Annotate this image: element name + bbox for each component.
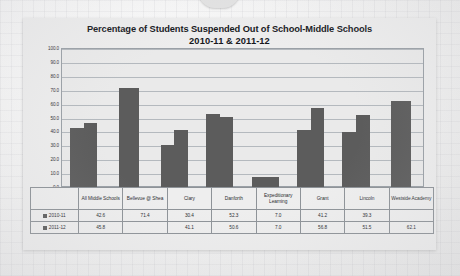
table-cell: 41.2 bbox=[300, 210, 344, 222]
y-axis-tick-label: 90.0 bbox=[50, 59, 59, 64]
table-cell: 51.5 bbox=[345, 222, 389, 234]
data-table-wrapper: All Middle SchoolsBellevue @ SheaClaryDa… bbox=[30, 187, 424, 234]
bar-group bbox=[243, 48, 288, 187]
table-column-header: Expeditionary Learning bbox=[256, 188, 300, 210]
bar-group bbox=[379, 48, 424, 187]
legend-swatch-icon bbox=[43, 226, 47, 230]
chart-card: Percentage of Students Suspended Out of … bbox=[23, 18, 436, 250]
bar-group bbox=[152, 48, 197, 187]
bar bbox=[84, 123, 98, 187]
bar-group bbox=[197, 48, 242, 187]
bar bbox=[161, 145, 175, 187]
bar bbox=[265, 177, 279, 187]
y-axis: 100.090.080.070.060.050.040.030.020.010.… bbox=[29, 48, 59, 187]
bar bbox=[252, 177, 266, 187]
table-cell: 41.1 bbox=[167, 222, 211, 234]
y-axis-tick-label: 50.0 bbox=[50, 115, 59, 120]
table-column-header: Grant bbox=[300, 188, 344, 210]
table-column-header: Clary bbox=[167, 188, 211, 210]
legend-entry: 2010-11 bbox=[31, 210, 79, 222]
data-table: All Middle SchoolsBellevue @ SheaClaryDa… bbox=[30, 187, 434, 234]
y-axis-tick-label: 10.0 bbox=[50, 171, 59, 176]
table-cell: 30.4 bbox=[167, 210, 211, 222]
table-cell: 50.6 bbox=[212, 222, 256, 234]
table-body: 2010-1142.671.430.452.37.041.239.32011-1… bbox=[31, 210, 434, 234]
y-axis-tick-label: 20.0 bbox=[50, 157, 59, 162]
chart-subtitle: 2010-11 & 2011-12 bbox=[23, 36, 436, 47]
legend-swatch-icon bbox=[43, 214, 47, 218]
y-axis-tick-label: 40.0 bbox=[50, 129, 59, 134]
legend-entry: 2011-12 bbox=[31, 222, 79, 234]
bar bbox=[342, 132, 356, 187]
bar-group bbox=[333, 48, 378, 187]
table-column-header: Bellevue @ Shea bbox=[123, 188, 167, 210]
table-cell: 7.0 bbox=[256, 222, 300, 234]
table-cell: 56.8 bbox=[300, 222, 344, 234]
table-cell: 42.6 bbox=[79, 210, 123, 222]
bar bbox=[174, 130, 188, 187]
chart-title-block: Percentage of Students Suspended Out of … bbox=[23, 24, 436, 47]
paper-curl-tab bbox=[198, 0, 240, 8]
bar bbox=[391, 101, 411, 187]
legend-label: 2010-11 bbox=[49, 213, 66, 218]
y-axis-tick-label: 100.0 bbox=[48, 46, 59, 51]
table-header-row: All Middle SchoolsBellevue @ SheaClaryDa… bbox=[31, 188, 434, 210]
table-column-header: All Middle Schools bbox=[79, 188, 123, 210]
y-axis-tick-label: 80.0 bbox=[50, 73, 59, 78]
bar bbox=[70, 128, 84, 187]
table-cell: 71.4 bbox=[123, 210, 167, 222]
bar-group bbox=[288, 48, 333, 187]
table-row: 2010-1142.671.430.452.37.041.239.3 bbox=[31, 210, 434, 222]
table-cell: 52.3 bbox=[212, 210, 256, 222]
bar bbox=[206, 114, 220, 187]
plot-area bbox=[61, 48, 424, 187]
table-column-header: Danforth bbox=[212, 188, 256, 210]
table-column-header: Lincoln bbox=[345, 188, 389, 210]
table-cell: 45.8 bbox=[79, 222, 123, 234]
legend-label: 2011-12 bbox=[49, 225, 66, 230]
bar bbox=[356, 115, 370, 187]
y-axis-tick-label: 30.0 bbox=[50, 143, 59, 148]
bar-group bbox=[61, 48, 106, 187]
table-column-header: Westside Academy bbox=[389, 188, 433, 210]
table-cell: 62.1 bbox=[389, 222, 433, 234]
y-axis-tick-label: 60.0 bbox=[50, 101, 59, 106]
table-cell: 7.0 bbox=[256, 210, 300, 222]
bar bbox=[119, 88, 139, 187]
y-axis-tick-label: 70.0 bbox=[50, 87, 59, 92]
chart-title: Percentage of Students Suspended Out of … bbox=[23, 24, 436, 35]
scanned-page: Percentage of Students Suspended Out of … bbox=[0, 0, 460, 276]
bar bbox=[220, 117, 234, 187]
bar bbox=[311, 108, 325, 187]
table-cell bbox=[389, 210, 433, 222]
table-corner-blank bbox=[31, 188, 79, 210]
table-cell bbox=[123, 222, 167, 234]
table-row: 2011-1245.841.150.67.056.851.562.1 bbox=[31, 222, 434, 234]
bar bbox=[297, 130, 311, 187]
table-cell: 39.3 bbox=[345, 210, 389, 222]
bar-group bbox=[106, 48, 151, 187]
